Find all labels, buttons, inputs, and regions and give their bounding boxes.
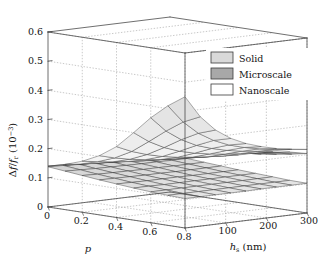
surface-layer bbox=[48, 97, 307, 199]
x-tick-label: 0.6 bbox=[142, 226, 157, 237]
axis-edge bbox=[48, 119, 52, 120]
y-tick-label: 100 bbox=[219, 225, 237, 236]
plot-canvas: 00.10.20.30.40.50.600.20.40.60.810020030… bbox=[0, 0, 334, 266]
gridline bbox=[117, 28, 239, 43]
legend: SolidMicroscaleNanoscale bbox=[206, 48, 314, 100]
axis-edge bbox=[48, 32, 185, 53]
z-tick-label: 0.4 bbox=[28, 85, 43, 96]
z-tick-label: 0.3 bbox=[28, 114, 43, 125]
figure-3d-surface-plot: 00.10.20.30.40.50.600.20.40.60.810020030… bbox=[0, 0, 334, 266]
y-axis-title: hs (nm) bbox=[230, 241, 267, 254]
surface-nanoscale bbox=[48, 97, 307, 166]
z-tick-label: 0.6 bbox=[28, 26, 43, 37]
y-title-units: (nm) bbox=[239, 241, 266, 252]
z-tick-label: 0.2 bbox=[28, 143, 43, 154]
gridline bbox=[151, 208, 273, 223]
axis-edge bbox=[48, 148, 52, 149]
legend-swatch-microscale bbox=[211, 68, 233, 79]
legend-swatch-nanoscale bbox=[211, 84, 233, 95]
legend-label-nanoscale: Nanoscale bbox=[239, 85, 290, 96]
gridline bbox=[82, 197, 204, 212]
axis-edge bbox=[48, 32, 52, 33]
z-tick-label: 0.5 bbox=[28, 55, 43, 66]
z-title-delta: Δ bbox=[7, 170, 18, 177]
z-axis-title: Δf/fr (10−3) bbox=[7, 123, 20, 178]
gridline bbox=[129, 197, 266, 218]
x-axis-title: p bbox=[85, 243, 92, 254]
axis-edge bbox=[48, 207, 52, 208]
x-tick-label: 0.4 bbox=[108, 221, 123, 232]
y-tick-label: 200 bbox=[259, 220, 277, 231]
axis-edge bbox=[48, 17, 170, 32]
z-title-units-close: ) bbox=[7, 123, 18, 127]
gridline bbox=[151, 33, 273, 48]
z-title-units-exp: −3 bbox=[7, 127, 15, 137]
z-title-units-open: (10 bbox=[7, 136, 18, 156]
x-tick-label: 0.8 bbox=[176, 231, 191, 242]
svg-text:Δf/fr (10−3): Δf/fr (10−3) bbox=[7, 123, 20, 178]
axis-edge bbox=[48, 90, 52, 91]
legend-swatch-solid bbox=[211, 52, 233, 63]
y-tick-label: 300 bbox=[300, 215, 318, 226]
x-tick-label: 0 bbox=[44, 210, 50, 221]
z-tick-label: 0 bbox=[37, 201, 43, 212]
z-tick-label: 0.1 bbox=[28, 172, 43, 183]
x-title-label: p bbox=[85, 243, 92, 254]
gridline bbox=[117, 203, 239, 218]
axis-edge bbox=[48, 192, 170, 207]
axis-edge bbox=[170, 192, 307, 213]
x-tick-label: 0.2 bbox=[74, 215, 89, 226]
axis-edge bbox=[48, 61, 52, 62]
axis-edge bbox=[48, 177, 52, 178]
axis-edge bbox=[170, 17, 307, 38]
gridline bbox=[82, 22, 204, 37]
axis-edge bbox=[185, 213, 307, 228]
legend-label-microscale: Microscale bbox=[239, 69, 292, 80]
legend-label-solid: Solid bbox=[239, 53, 263, 64]
svg-text:hs (nm): hs (nm) bbox=[230, 241, 267, 254]
